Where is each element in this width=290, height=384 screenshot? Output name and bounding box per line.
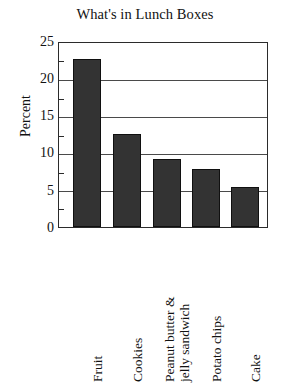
plot-area bbox=[58, 42, 268, 228]
x-label-potato-chips: Potato chips bbox=[209, 232, 224, 382]
y-tick-20: 20 bbox=[28, 72, 54, 86]
x-label-fruit: Fruit bbox=[90, 232, 105, 382]
x-label-pbj-line1: Peanut butter & bbox=[162, 297, 177, 382]
y-tickmark-18 bbox=[59, 99, 64, 100]
x-label-cookies: Cookies bbox=[130, 232, 145, 382]
x-label-pbj-line2: jelly sandwich bbox=[177, 232, 192, 382]
y-tickmark-13 bbox=[59, 136, 64, 137]
y-tickmark-22 bbox=[59, 61, 64, 62]
y-tickmark-3 bbox=[59, 209, 64, 210]
bar-pbj-sandwich[interactable] bbox=[153, 159, 181, 227]
y-tickmark-8 bbox=[59, 173, 64, 174]
y-tick-25: 25 bbox=[28, 35, 54, 49]
bar-potato-chips[interactable] bbox=[192, 169, 220, 227]
bar-fruit[interactable] bbox=[73, 59, 101, 227]
y-axis-tick-labels: 25 20 15 10 5 0 bbox=[28, 0, 54, 384]
x-axis-category-labels: Fruit Cookies Peanut butter & jelly sand… bbox=[58, 232, 268, 384]
x-label-cake: Cake bbox=[248, 232, 263, 382]
bar-chart: What's in Lunch Boxes Percent 25 20 15 1… bbox=[0, 0, 290, 384]
x-label-pbj-sandwich: Peanut butter & jelly sandwich bbox=[162, 232, 192, 382]
y-tick-10: 10 bbox=[28, 146, 54, 160]
y-tick-15: 15 bbox=[28, 109, 54, 123]
y-tick-5: 5 bbox=[28, 184, 54, 198]
bar-cookies[interactable] bbox=[113, 134, 141, 227]
y-tick-0: 0 bbox=[28, 221, 54, 235]
bar-cake[interactable] bbox=[231, 187, 259, 227]
